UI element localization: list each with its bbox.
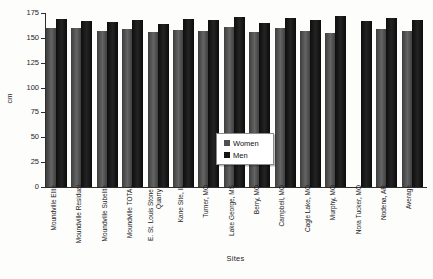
bar-women-6 [198,31,208,187]
bar-men-13 [386,18,397,187]
bar-men-9 [285,18,296,187]
x-tick-label: Turner, MO [202,185,210,257]
x-tick-label: Moundville Residual [75,185,83,257]
y-tick-mark [41,88,45,89]
x-tick-label: Kane Site, IL [177,185,185,257]
y-tick-mark [41,187,45,188]
y-tick-mark [41,162,45,163]
y-tick-mark [41,38,45,39]
legend-label: Men [233,151,248,160]
y-tick-label: 150 [13,34,39,42]
bar-men-12 [361,21,372,187]
y-tick-mark [41,13,45,14]
y-tick-mark [41,63,45,64]
stature-bar-chart: cm 0255075100125150175 Moundville EliteM… [0,0,433,279]
bar-women-3 [122,29,132,187]
bar-men-1 [81,21,92,187]
bar-women-11 [325,33,335,187]
bar-women-5 [173,30,183,187]
bar-men-5 [183,19,194,187]
x-tick-label: Campbell, MO [278,185,286,257]
y-tick-label: 100 [13,84,39,92]
legend-swatch-women-icon [224,140,230,146]
x-tick-label: Murphy, MO [329,185,337,257]
x-tick-label: Lake George, MS [228,185,236,257]
x-tick-label: Berry, MO [253,185,261,257]
legend-swatch-men-icon [224,152,230,158]
y-tick-label: 125 [13,59,39,67]
x-tick-label: Cagle Lake, MO [304,185,312,257]
x-tick-label: Nodena, AR [380,185,388,257]
y-tick-mark [41,137,45,138]
bar-men-10 [310,20,321,187]
y-tick-label: 75 [13,108,39,116]
legend-item-men: Men [224,151,273,160]
x-tick-label: Moundville TOTAL [126,185,134,257]
y-tick-label: 175 [13,9,39,17]
legend-box: WomenMen [216,133,274,165]
bar-men-11 [335,16,346,187]
y-tick-label: 0 [13,183,39,191]
bar-women-1 [71,28,81,187]
bar-women-0 [46,28,56,187]
x-tick-label: Moundville Elite [50,185,58,257]
bar-men-2 [107,22,118,187]
x-tick-label: Moundville Subelite [101,185,109,257]
bar-women-13 [376,29,386,187]
legend-label: Women [233,139,259,148]
legend-item-women: Women [224,139,273,148]
bar-women-9 [275,28,285,187]
bar-men-14 [412,20,423,187]
x-tick-label: E. St. Louis Stone Quarry [147,189,163,261]
bar-women-4 [148,32,158,187]
x-tick-label: Average [405,185,413,257]
x-tick-label: Nora Tucker, MO [355,185,363,257]
bar-men-3 [132,20,143,187]
y-tick-label: 25 [13,158,39,166]
bar-women-2 [97,31,107,187]
x-axis-title: Sites [45,254,426,263]
bar-men-4 [158,24,169,187]
bar-women-14 [402,31,412,187]
y-tick-mark [41,112,45,113]
y-tick-label: 50 [13,133,39,141]
bar-women-10 [300,31,310,187]
bar-men-0 [56,19,67,187]
